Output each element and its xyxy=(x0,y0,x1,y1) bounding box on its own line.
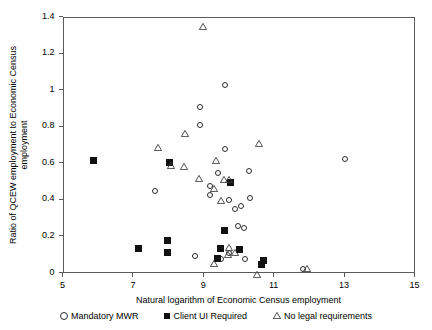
x-tick-label: 9 xyxy=(183,280,223,290)
data-point xyxy=(260,257,267,264)
data-point xyxy=(210,178,218,185)
x-tick-mark xyxy=(344,273,345,277)
data-point xyxy=(181,123,189,130)
data-point xyxy=(241,225,247,231)
scatter-chart-figure: Ratio of QCEW employment to Economic Cen… xyxy=(0,0,432,330)
y-tick-label: 1 xyxy=(19,84,55,94)
data-point xyxy=(231,242,239,249)
data-point xyxy=(164,249,171,256)
data-point xyxy=(135,245,142,252)
data-point xyxy=(90,157,97,164)
data-point xyxy=(180,156,188,163)
y-tick-label: 1.4 xyxy=(19,11,55,21)
data-point xyxy=(199,16,207,23)
legend-item[interactable]: No legal requirements xyxy=(273,311,372,321)
plot-area-frame xyxy=(63,17,415,273)
x-tick-mark xyxy=(203,273,204,277)
data-point xyxy=(212,150,220,157)
x-tick-mark xyxy=(414,273,415,277)
legend-label: Client UI Required xyxy=(173,311,247,321)
x-tick-label: 13 xyxy=(324,280,364,290)
legend-label: Mandatory MWR xyxy=(71,311,139,321)
y-tick-mark xyxy=(59,16,63,17)
y-tick-label: 1.2 xyxy=(19,47,55,57)
chart-legend: Mandatory MWRClient UI RequiredNo legal … xyxy=(0,311,432,321)
x-tick-label: 7 xyxy=(113,280,153,290)
x-tick-label: 5 xyxy=(43,280,83,290)
y-tick-mark xyxy=(59,126,63,127)
data-point xyxy=(154,137,162,144)
y-tick-label: 0.4 xyxy=(19,193,55,203)
data-point xyxy=(221,227,228,234)
data-point xyxy=(253,264,261,271)
legend-circle-icon xyxy=(60,312,68,320)
legend-triangle-icon xyxy=(273,312,281,320)
data-point xyxy=(217,190,225,197)
y-tick-label: 0 xyxy=(19,267,55,277)
data-point xyxy=(238,203,244,209)
data-point xyxy=(207,192,213,198)
x-tick-mark xyxy=(132,273,133,277)
data-point xyxy=(342,156,348,162)
y-tick-label: 0.8 xyxy=(19,120,55,130)
data-point xyxy=(152,188,158,194)
x-tick-mark xyxy=(62,273,63,277)
data-point xyxy=(195,168,203,175)
data-point xyxy=(225,169,233,176)
data-point xyxy=(246,168,252,174)
x-tick-label: 11 xyxy=(254,280,294,290)
data-point xyxy=(164,237,171,244)
legend-square-icon xyxy=(164,313,170,319)
y-tick-mark xyxy=(59,53,63,54)
data-point xyxy=(210,253,218,260)
y-tick-mark xyxy=(59,162,63,163)
x-tick-label: 15 xyxy=(395,280,432,290)
legend-label: No legal requirements xyxy=(284,311,372,321)
y-tick-mark xyxy=(59,235,63,236)
data-point xyxy=(303,258,311,265)
y-tick-label: 0.2 xyxy=(19,230,55,240)
data-point xyxy=(255,133,263,140)
legend-item[interactable]: Client UI Required xyxy=(164,311,247,321)
x-tick-mark xyxy=(273,273,274,277)
x-axis-title: Natural logarithm of Economic Census emp… xyxy=(0,295,432,305)
y-tick-mark xyxy=(59,199,63,200)
y-tick-label: 0.6 xyxy=(19,157,55,167)
data-point xyxy=(167,155,175,162)
data-point xyxy=(242,256,248,262)
legend-item[interactable]: Mandatory MWR xyxy=(60,311,139,321)
y-tick-mark xyxy=(59,89,63,90)
